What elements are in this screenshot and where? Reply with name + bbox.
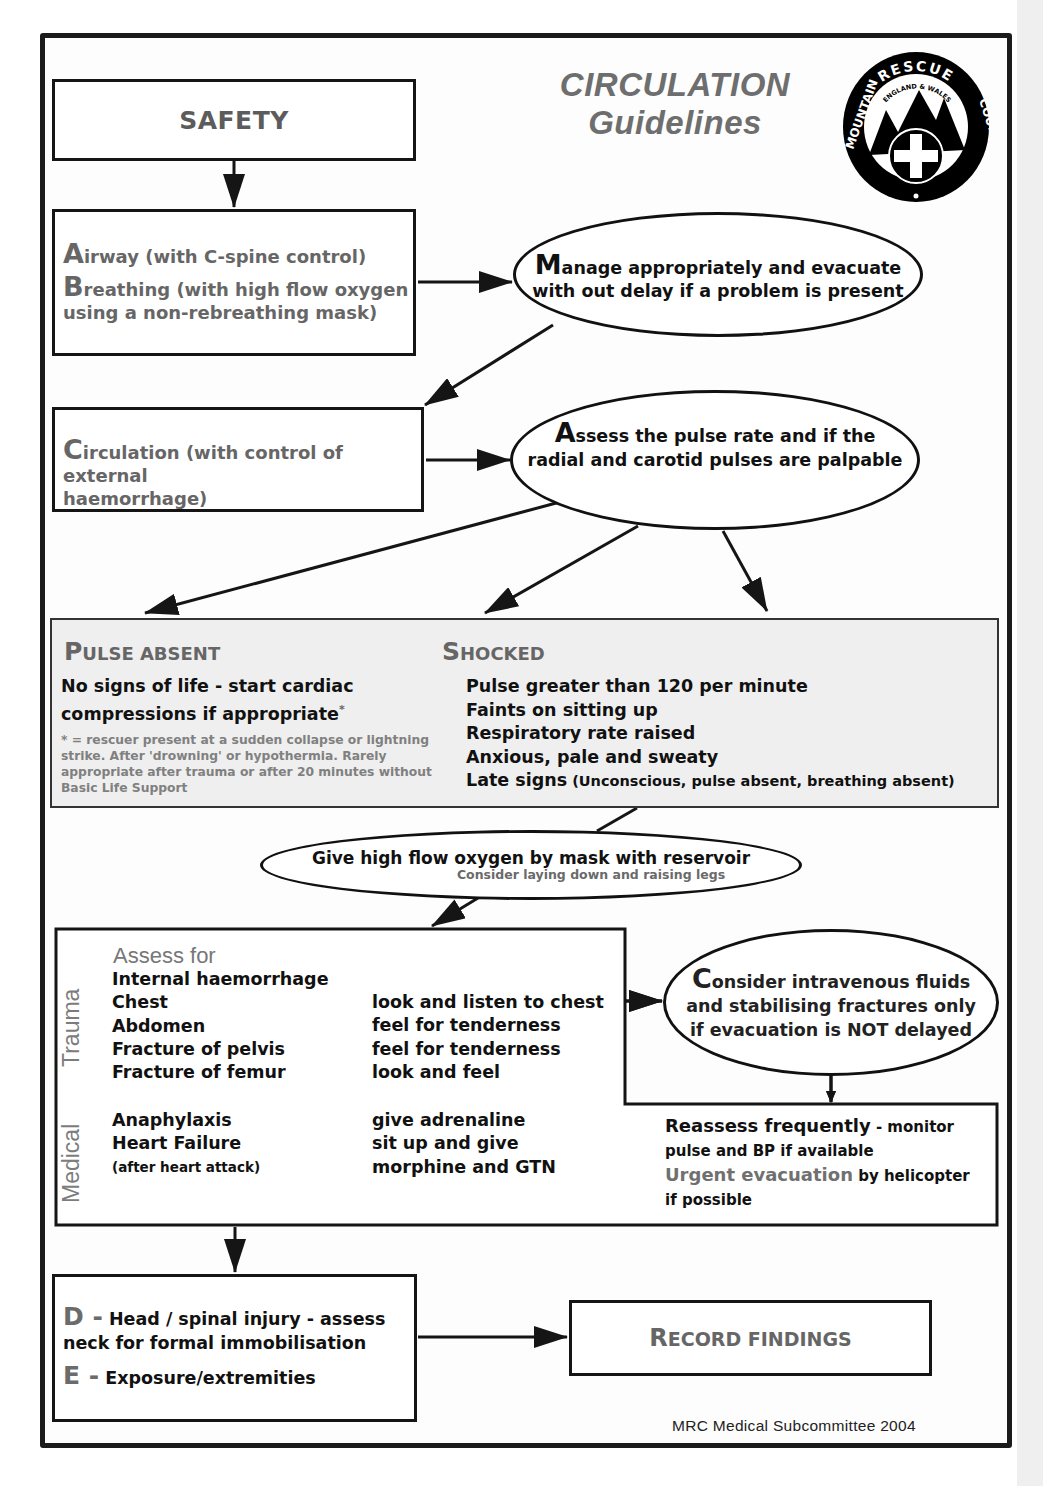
airway-line: Airway (with C-spine control): [63, 242, 413, 268]
manage-ellipse: Manage appropriately and evacuate with o…: [513, 212, 923, 337]
airway-initial: A: [63, 238, 84, 269]
trauma-label: Trauma: [58, 989, 85, 1067]
assess-pulse-ellipse: Assess the pulse rate and if the radial …: [510, 390, 920, 530]
medical-action: give adrenaline: [372, 1109, 556, 1132]
pulse-absent-main: No signs of life - start cardiac compres…: [61, 675, 431, 726]
trauma-action: feel for tenderness: [372, 1014, 604, 1037]
oxygen-ellipse: Give high flow oxygen by mask with reser…: [260, 830, 802, 900]
trauma-actions: look and listen to chest feel for tender…: [372, 991, 604, 1084]
consider-initial: C: [692, 963, 712, 994]
pulse-absent-cap: P: [64, 637, 82, 666]
d-line: D - Head / spinal injury - assess: [63, 1305, 414, 1331]
d-text-cont: neck for formal immobilisation: [63, 1331, 414, 1355]
medical-actions: give adrenaline sit up and give morphine…: [372, 1109, 556, 1179]
manage-body: anage appropriately and evacuate with ou…: [532, 258, 903, 301]
consider-body: onsider intravenous fluids and stabilisi…: [686, 972, 976, 1040]
trauma-action: look and feel: [372, 1061, 604, 1084]
e-text: Exposure/extremities: [105, 1368, 315, 1388]
safety-label: SAFETY: [179, 106, 289, 135]
reassess-bold: Reassess frequently: [665, 1115, 871, 1136]
medical-condition: Heart Failure: [112, 1132, 260, 1155]
e-line: E - Exposure/extremities: [63, 1364, 414, 1390]
oxygen-sub: Consider laying down and raising legs: [457, 868, 725, 882]
shocked-item: Faints on sitting up: [466, 699, 955, 723]
breathing-text-cont: using a non-rebreathing mask): [63, 301, 413, 324]
e-letter: E -: [63, 1361, 99, 1390]
medical-condition-note: (after heart attack): [112, 1156, 260, 1179]
mountain-cross-logo-icon: RESCUE MOUNTAIN COUNCIL ENGLAND & WALES: [841, 50, 991, 205]
assess-line2: radial and carotid pulses are palpable: [528, 448, 903, 472]
manage-initial: M: [535, 249, 562, 280]
trauma-condition: Abdomen: [112, 1015, 329, 1038]
shocked-cap: S: [442, 637, 460, 666]
consider-text: Consider intravenous fluids and stabilis…: [681, 967, 981, 1042]
pulse-absent-text: No signs of life - start cardiac compres…: [61, 676, 354, 724]
circulation-line: Circulation (with control of external: [63, 438, 421, 487]
record-label: RECORD FINDINGS: [649, 1324, 852, 1352]
manage-text: Manage appropriately and evacuate with o…: [523, 253, 913, 303]
pulse-absent-rest: ULSE ABSENT: [82, 643, 220, 664]
circulation-text-cont: haemorrhage): [63, 487, 421, 510]
trauma-condition: Fracture of femur: [112, 1061, 329, 1084]
assess-line1: Assess the pulse rate and if the: [555, 421, 876, 448]
trauma-condition: Internal haemorrhage: [112, 968, 329, 991]
title-line1: CIRCULATION: [520, 66, 830, 104]
airway-breathing-box: Airway (with C-spine control) Breathing …: [52, 209, 416, 356]
footer-credit: MRC Medical Subcommittee 2004: [672, 1417, 916, 1435]
d-letter: D -: [63, 1302, 103, 1331]
breathing-initial: B: [63, 271, 84, 302]
shocked-late-signs: Late signs (Unconscious, pulse absent, b…: [466, 769, 955, 794]
shocked-item: Respiratory rate raised: [466, 722, 955, 746]
consider-ellipse: Consider intravenous fluids and stabilis…: [663, 929, 999, 1076]
shocked-list: Pulse greater than 120 per minute Faints…: [466, 675, 955, 794]
safety-box: SAFETY: [52, 79, 416, 161]
circulation-text: irculation (with control of external: [63, 442, 343, 486]
shocked-rest: HOCKED: [460, 643, 545, 664]
title-line2: Guidelines: [520, 104, 830, 142]
medical-label: Medical: [58, 1124, 85, 1203]
medical-condition: Anaphylaxis: [112, 1109, 260, 1132]
page-title: CIRCULATION Guidelines: [520, 66, 830, 142]
reassess-text: Reassess frequently - monitor pulse and …: [665, 1114, 985, 1212]
trauma-condition: Fracture of pelvis: [112, 1038, 329, 1061]
late-label: Late signs: [466, 770, 567, 790]
breathing-text: reathing (with high flow oxygen: [84, 279, 409, 300]
assess-initial: A: [555, 417, 576, 448]
airway-text: irway (with C-spine control): [84, 246, 366, 267]
record-rest: ECORD FINDINGS: [668, 1328, 852, 1350]
medical-conditions: Anaphylaxis Heart Failure (after heart a…: [112, 1109, 260, 1179]
medical-action: sit up and give: [372, 1132, 556, 1155]
trauma-conditions: Internal haemorrhage Chest Abdomen Fract…: [112, 968, 329, 1084]
pulse-absent-heading: PULSE ABSENT: [64, 637, 220, 666]
page-edge-strip: [1017, 0, 1043, 1486]
shocked-item: Anxious, pale and sweaty: [466, 746, 955, 770]
record-cap: R: [649, 1324, 667, 1352]
shocked-item: Pulse greater than 120 per minute: [466, 675, 955, 699]
oxygen-main: Give high flow oxygen by mask with reser…: [312, 848, 750, 868]
late-detail: (Unconscious, pulse absent, breathing ab…: [567, 773, 955, 789]
trauma-action: look and listen to chest: [372, 991, 604, 1014]
trauma-action: feel for tenderness: [372, 1038, 604, 1061]
disability-exposure-box: D - Head / spinal injury - assess neck f…: [52, 1274, 417, 1422]
assess-for-heading: Assess for: [113, 943, 216, 969]
asterisk: *: [339, 703, 345, 716]
shocked-heading: SHOCKED: [442, 637, 545, 666]
pulse-absent-note: * = rescuer present at a sudden collapse…: [61, 732, 441, 796]
trauma-condition: Chest: [112, 991, 329, 1014]
urgent-evacuation: Urgent evacuation: [665, 1164, 853, 1185]
d-text: Head / spinal injury - assess: [109, 1309, 385, 1329]
breathing-line: Breathing (with high flow oxygen: [63, 275, 413, 301]
pulse-signs-panel: PULSE ABSENT No signs of life - start ca…: [50, 618, 999, 808]
circulation-box: Circulation (with control of external ha…: [52, 407, 424, 512]
medical-action: morphine and GTN: [372, 1156, 556, 1179]
circulation-initial: C: [63, 434, 83, 465]
assess-text: ssess the pulse rate and if the: [576, 426, 876, 446]
record-findings-box: RECORD FINDINGS: [569, 1300, 932, 1376]
